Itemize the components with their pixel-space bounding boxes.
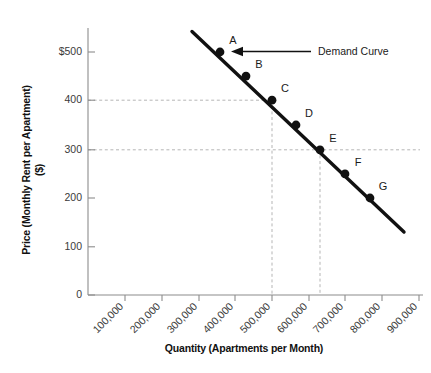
x-tick-label-400000: 400,000 [200, 300, 235, 335]
y-tick-label-400: 400 [64, 93, 82, 105]
x-axis-ticks [125, 295, 419, 301]
data-point-e[interactable] [316, 145, 325, 154]
data-point-label-g: G [379, 180, 388, 192]
y-tick-label-200: 200 [64, 191, 82, 203]
x-tick-label-100000: 100,000 [90, 300, 125, 335]
x-tick-label-200000: 200,000 [127, 300, 162, 335]
data-point-g[interactable] [366, 194, 375, 203]
data-point-label-e: E [329, 132, 336, 144]
demand-curve-line [192, 32, 404, 233]
y-tick-label-0: 0 [76, 288, 82, 300]
y-tick-label-500: $500 [59, 45, 83, 57]
annotation-label-demand-curve: Demand Curve [318, 45, 389, 57]
x-axis-title: Quantity (Apartments per Month) [165, 342, 323, 354]
x-axis-tick-labels: 100,000 200,000 300,000 400,000 500,000 … [90, 300, 419, 335]
data-point-b[interactable] [242, 72, 251, 81]
demand-curve-chart: $500 400 300 200 100 0 100,000 200,000 3… [0, 0, 431, 373]
x-tick-label-900000: 900,000 [384, 300, 419, 335]
x-tick-label-300000: 300,000 [164, 300, 199, 335]
y-tick-label-300: 300 [64, 143, 82, 155]
data-point-d[interactable] [292, 121, 301, 130]
x-tick-label-500000: 500,000 [237, 300, 272, 335]
data-point-label-d: D [305, 107, 313, 119]
y-axis-title-line2: ($) [33, 164, 45, 176]
y-axis-ticks [88, 52, 95, 295]
y-axis-title-line1: Price (Monthly Rent per Apartment) [20, 85, 32, 255]
data-point-label-f: F [355, 156, 362, 168]
data-point-label-a: A [229, 34, 237, 46]
x-tick-label-800000: 800,000 [347, 300, 382, 335]
data-point-f[interactable] [341, 170, 350, 179]
data-point-a[interactable] [216, 48, 225, 57]
data-point-labels: A B C D E F G [229, 34, 387, 192]
y-axis-tick-labels: $500 400 300 200 100 0 [59, 45, 83, 300]
data-point-c[interactable] [268, 96, 277, 105]
chart-canvas: $500 400 300 200 100 0 100,000 200,000 3… [0, 0, 431, 373]
data-point-label-b: B [255, 58, 262, 70]
x-tick-label-700000: 700,000 [310, 300, 345, 335]
x-tick-label-600000: 600,000 [274, 300, 309, 335]
data-point-label-c: C [281, 82, 289, 94]
demand-curve-annotation: Demand Curve [231, 45, 389, 57]
y-tick-label-100: 100 [64, 240, 82, 252]
y-axis-title: Price (Monthly Rent per Apartment) ($) [20, 85, 45, 255]
annotation-arrow-head-icon [231, 47, 243, 56]
